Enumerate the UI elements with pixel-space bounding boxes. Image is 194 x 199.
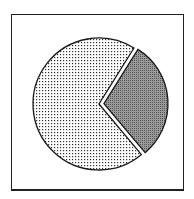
pie-chart bbox=[0, 0, 194, 199]
